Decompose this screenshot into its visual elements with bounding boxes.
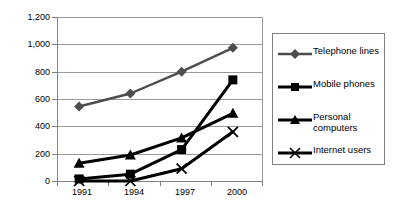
y-axis-label-600: 600	[4, 95, 50, 104]
line-chart: 1,200 1,000 800 600 400 200 0 1991 1994 …	[0, 0, 401, 213]
y-axis-label-800: 800	[4, 68, 50, 77]
y-axis-label-0: 0	[4, 177, 50, 186]
y-axis-label-400: 400	[4, 122, 50, 131]
square-marker-icon	[278, 79, 312, 91]
y-tick	[52, 154, 58, 155]
plot-right-border	[262, 17, 263, 182]
y-tick	[52, 126, 58, 127]
x-tick	[262, 181, 263, 186]
y-axis-label-200: 200	[4, 150, 50, 159]
plot-region: 1,200 1,000 800 600 400 200 0 1991 1994 …	[0, 0, 270, 213]
gridline	[57, 44, 262, 45]
legend-label: Telephone lines	[313, 45, 379, 56]
legend-item-internet-users[interactable]: Internet users	[273, 144, 386, 157]
x-axis-label-1997: 1997	[163, 188, 207, 197]
triangle-marker-icon	[278, 112, 312, 124]
x-tick	[108, 181, 109, 186]
legend-item-telephone-lines[interactable]: Telephone lines	[273, 45, 386, 58]
legend-item-mobile-phones[interactable]: Mobile phones	[273, 78, 386, 91]
x-tick	[160, 181, 161, 186]
x-axis-label-1994: 1994	[112, 188, 156, 197]
gridline	[57, 126, 262, 127]
y-tick	[52, 44, 58, 45]
gridline	[57, 154, 262, 155]
plot-area	[57, 17, 262, 181]
legend-item-personal-computers[interactable]: Personal computers	[273, 111, 386, 133]
gridline	[57, 72, 262, 73]
y-tick	[52, 72, 58, 73]
chart-legend: Telephone lines Mobile phones Personal c…	[272, 33, 385, 165]
y-axis-label-1000: 1,000	[4, 40, 50, 49]
gridline	[57, 99, 262, 100]
y-axis-label-1200: 1,200	[4, 13, 50, 22]
y-tick	[52, 17, 58, 18]
x-axis-label-1991: 1991	[60, 188, 104, 197]
diamond-marker-icon	[278, 46, 312, 58]
x-axis-label-2000: 2000	[215, 188, 259, 197]
x-tick	[57, 181, 58, 186]
legend-label: Personal computers	[313, 111, 357, 133]
legend-label: Mobile phones	[313, 78, 375, 89]
y-tick	[52, 99, 58, 100]
legend-label: Internet users	[313, 144, 371, 155]
x-tick	[211, 181, 212, 186]
gridline	[57, 17, 262, 18]
cross-marker-icon	[278, 145, 312, 157]
